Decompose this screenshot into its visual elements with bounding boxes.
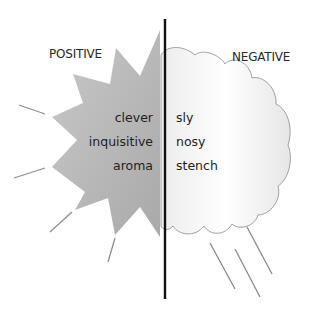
positive-word: clever [115,110,153,125]
diagram-canvas [0,0,309,321]
positive-word: aroma [113,158,153,173]
negative-word: nosy [176,134,205,149]
negative-word: sly [176,110,193,125]
positive-heading: POSITIVE [49,47,102,61]
positive-word: inquisitive [89,134,153,149]
negative-heading: NEGATIVE [232,50,290,64]
negative-word: stench [176,158,218,173]
rain-lines-icon [210,227,272,297]
